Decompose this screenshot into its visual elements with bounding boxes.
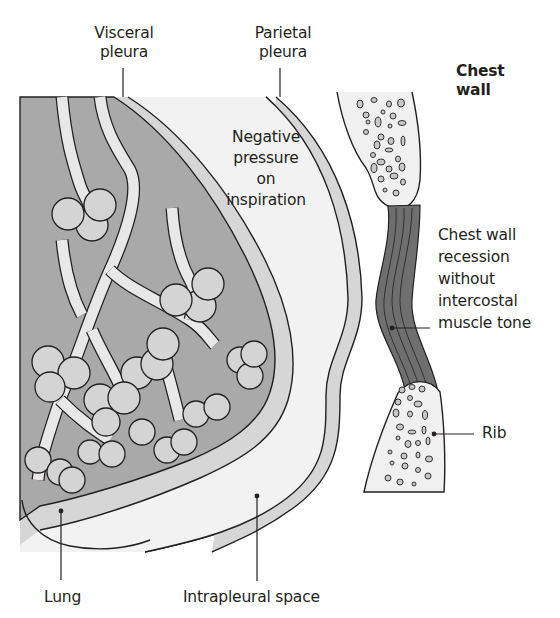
intercostal-muscle xyxy=(376,205,438,392)
label-chest-wall-recession: Chest wall recession without intercostal… xyxy=(438,224,531,334)
label-negative-pressure: Negative pressure on inspiration xyxy=(222,127,310,211)
lower-rib xyxy=(364,382,445,492)
label-visceral-pleura: Visceral pleura xyxy=(86,24,162,62)
label-intrapleural-space: Intrapleural space xyxy=(183,588,320,607)
upper-rib xyxy=(337,92,421,208)
label-rib: Rib xyxy=(482,424,506,443)
label-chest-wall: Chest wall xyxy=(456,62,505,100)
label-lung: Lung xyxy=(44,588,81,607)
label-parietal-pleura: Parietal pleura xyxy=(248,24,318,62)
pleura-diagram: Visceral pleura Parietal pleura Chest wa… xyxy=(0,0,560,618)
